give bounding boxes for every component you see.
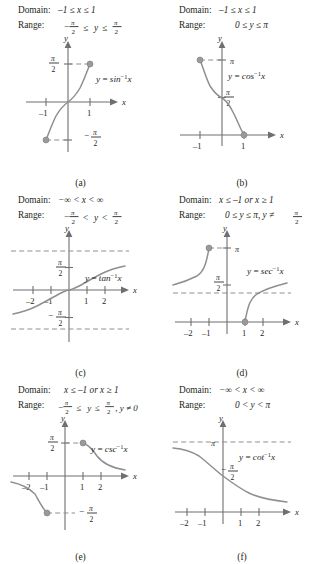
panel-b-domain-label: Domain:: [179, 3, 219, 18]
panel-c-range-value: − π 2 < y < π 2: [64, 208, 156, 225]
svg-text:π: π: [107, 399, 111, 406]
panel-a-ytick-neg-pi-over-2-den: 2: [93, 139, 97, 148]
panel-d-xtick--1: –1: [201, 328, 211, 338]
panel-a-xtick-1: 1: [87, 108, 91, 118]
panel-b-xtick-1: 1: [241, 141, 245, 151]
panel-c-chart: y x –2 –1 1 2 π 2 − π: [3, 224, 158, 354]
panel-d-domain-label: Domain:: [179, 193, 219, 208]
panel-c-domain-label: Domain:: [18, 193, 58, 208]
panel-f-domain-label: Domain:: [179, 383, 219, 398]
panel-a-chart: y x –1 1 π 2 − π 2: [6, 34, 156, 159]
panel-c-xtick-2: 2: [102, 296, 106, 306]
panel-f-range-label: Range:: [179, 398, 219, 413]
panel-a-range-label: Range:: [18, 18, 58, 33]
panel-c: Domain: −∞ < x < ∞ Range: − π 2 < y < π …: [0, 190, 161, 380]
svg-text:π: π: [114, 19, 118, 27]
panel-a-function-label: y = sin−1x: [95, 73, 133, 85]
panel-e-function-label: y = csc−1x: [90, 443, 129, 455]
panel-d-xtick--2: –2: [183, 328, 193, 338]
panel-a-ytick-pi-over-2-den: 2: [51, 65, 55, 74]
panel-d-ytick-pi: π: [235, 245, 240, 254]
panel-e-xtick-1: 1: [80, 482, 84, 492]
panel-d: Domain: x ≤ –1 or x ≥ 1 Range: 0 ≤ y ≤ π…: [161, 190, 323, 380]
panel-c-ytick-pi-over-2-num: π: [58, 258, 62, 267]
panel-a-domain-label: Domain:: [18, 3, 58, 18]
panel-b-header: Domain: –1 ≤ x ≤ 1 Range: 0 ≤ y ≤ π: [161, 3, 323, 33]
svg-text:≤: ≤: [76, 403, 81, 413]
panel-e-ytick-pi-over-2-num: π: [50, 433, 54, 442]
panel-d-plot: y x –2 –1 1 2 π π 2: [161, 224, 323, 354]
panel-c-range-label: Range:: [18, 208, 58, 223]
panel-b-ytick-pi: π: [230, 57, 235, 66]
panel-c-function-label: y = tan−1x: [84, 272, 123, 284]
panel-d-range-value: 0 ≤ y ≤ π, y ≠: [219, 208, 274, 223]
panel-a-ytick-pi-over-2-num: π: [51, 54, 55, 63]
panel-e-domain-label: Domain:: [18, 383, 58, 398]
panel-d-caption: (d): [161, 368, 323, 378]
panel-d-ytick-pi-over-2-den: 2: [216, 284, 220, 293]
panel-d-y-axis-label: y: [222, 224, 227, 233]
panel-a-range-value: − π 2 ≤ y ≤ π 2: [64, 18, 156, 35]
panel-c-ytick-neg-pi-over-2-num: π: [58, 308, 62, 317]
panel-c-domain-value: −∞ < x < ∞: [58, 193, 104, 208]
panel-d-xtick-2: 2: [260, 328, 264, 338]
panel-e-range-value: − π 2 ≤ y ≤ π 2 , y ≠ 0: [58, 398, 161, 415]
panel-e-xtick-2: 2: [98, 482, 102, 492]
panel-a-plot: y x –1 1 π 2 − π 2: [0, 34, 161, 159]
panel-d-domain-value: x ≤ –1 or x ≥ 1: [219, 193, 274, 208]
svg-text:−: −: [64, 22, 69, 32]
panel-d-header: Domain: x ≤ –1 or x ≥ 1 Range: 0 ≤ y ≤ π…: [161, 193, 323, 225]
panel-d-x-axis-label: x: [294, 317, 299, 327]
panel-a-ytick-neg-pi-over-2-num: π: [93, 128, 97, 137]
panel-b-plot: y x –1 1 π π 2 y = cos−1x: [161, 34, 323, 159]
panel-e: Domain: x ≤ –1 or x ≥ 1 Range: − π 2 ≤ y…: [0, 380, 161, 564]
panel-f-range-value: 0 < y < π: [219, 398, 270, 413]
svg-text:<: <: [83, 213, 88, 223]
panel-e-header: Domain: x ≤ –1 or x ≥ 1 Range: − π 2 ≤ y…: [0, 383, 161, 415]
panel-d-xtick-1: 1: [242, 328, 246, 338]
panel-a: Domain: –1 ≤ x ≤ 1 Range: − π 2 ≤ y ≤ π …: [0, 0, 161, 190]
panel-d-range-label: Range:: [179, 208, 219, 223]
svg-text:π: π: [65, 399, 69, 406]
panel-d-chart: y x –2 –1 1 2 π π 2: [165, 224, 320, 354]
panel-e-ytick-pi-over-2-den: 2: [51, 444, 55, 453]
panel-f-ytick-pi-over-2-num: π: [230, 462, 234, 471]
panel-c-ytick-pi-over-2-den: 2: [59, 269, 63, 278]
svg-text:y: y: [93, 213, 99, 223]
panel-e-domain-value: x ≤ –1 or x ≥ 1: [58, 383, 119, 398]
panel-d-range-pi-over-2: π 2: [293, 208, 305, 225]
panel-f-domain-value: −∞ < x < ∞: [219, 383, 265, 398]
panel-d-function-label: y = sec−1x: [246, 265, 285, 277]
panel-c-x-axis-label: x: [132, 285, 137, 295]
panel-a-domain-value: –1 ≤ x ≤ 1: [58, 3, 96, 18]
figure-grid: Domain: –1 ≤ x ≤ 1 Range: − π 2 ≤ y ≤ π …: [0, 0, 323, 564]
svg-text:π: π: [114, 209, 118, 217]
panel-b-chart: y x –1 1 π π 2 y = cos−1x: [166, 34, 318, 159]
panel-a-ytick-neg-sign: −: [84, 130, 89, 140]
panel-c-caption: (c): [0, 368, 161, 378]
svg-text:≤: ≤: [95, 403, 100, 413]
panel-e-xtick--1: –1: [39, 482, 49, 492]
panel-c-y-axis-label: y: [64, 224, 69, 233]
panel-f-x-axis-label: x: [294, 507, 299, 517]
panel-f-ytick-pi: π: [211, 439, 216, 448]
panel-c-ytick-neg-pi-over-2-den: 2: [59, 319, 63, 328]
panel-e-plot: y x –2 –1 1 2 π 2 − π 2: [0, 414, 161, 542]
svg-text:<: <: [102, 213, 107, 223]
svg-text:−: −: [58, 402, 63, 412]
panel-a-xtick--1: –1: [38, 108, 48, 118]
svg-text:≤: ≤: [83, 23, 88, 33]
svg-text:−: −: [64, 212, 69, 222]
panel-e-range-label: Range:: [18, 398, 58, 413]
panel-e-ytick-neg-pi-over-2-num: π: [89, 504, 93, 513]
panel-c-header: Domain: −∞ < x < ∞ Range: − π 2 < y < π …: [0, 193, 161, 225]
panel-d-ytick-pi-over-2-num: π: [216, 273, 220, 282]
svg-text:π: π: [71, 209, 75, 217]
panel-e-caption: (e): [0, 552, 161, 562]
panel-c-ytick-neg-sign: −: [48, 310, 53, 320]
panel-f: Domain: −∞ < x < ∞ Range: 0 < y < π y x: [161, 380, 323, 564]
panel-c-xtick--2: –2: [25, 296, 35, 306]
panel-f-xtick--2: –2: [179, 518, 189, 528]
panel-a-x-axis-label: x: [121, 97, 126, 107]
panel-e-x-axis-label: x: [132, 471, 137, 481]
